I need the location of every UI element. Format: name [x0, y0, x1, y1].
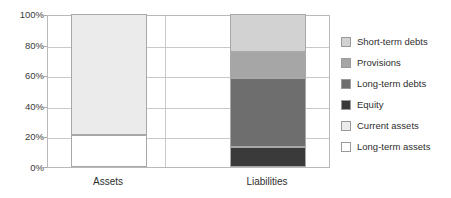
- y-tick-label-80: 80%: [4, 41, 44, 51]
- bar-segment-long-term-assets: [71, 135, 147, 167]
- legend-item-long-term-assets: Long-term assets: [341, 136, 451, 157]
- plot-area: [47, 15, 330, 168]
- legend-item-short-term-debts: Short-term debts: [341, 31, 451, 52]
- y-tick-label-40: 40%: [4, 102, 44, 112]
- stacked-bar-chart: 100% 80% 60% 40% 20% 0%: [0, 0, 451, 198]
- bar-segment-long-term-debts: [230, 78, 306, 147]
- legend-label-provisions: Provisions: [357, 57, 401, 68]
- bar-segment-current-assets: [71, 14, 147, 135]
- y-tick-label-0: 0%: [4, 163, 44, 173]
- legend-label-long-term-debts: Long-term debts: [357, 78, 426, 89]
- x-label-liabilities: Liabilities: [207, 176, 327, 187]
- y-tick-label-20: 20%: [4, 132, 44, 142]
- legend-label-short-term-debts: Short-term debts: [357, 36, 428, 47]
- legend-label-current-assets: Current assets: [357, 120, 419, 131]
- bar-liabilities: [230, 14, 306, 167]
- legend-swatch-icon-equity: [341, 100, 351, 110]
- legend-swatch-icon-long-term-debts: [341, 79, 351, 89]
- legend-swatch-icon-provisions: [341, 58, 351, 68]
- legend-item-provisions: Provisions: [341, 52, 451, 73]
- y-tick-label-60: 60%: [4, 71, 44, 81]
- legend-label-equity: Equity: [357, 99, 383, 110]
- y-axis: 100% 80% 60% 40% 20% 0%: [0, 15, 44, 168]
- legend-swatch-icon-long-term-assets: [341, 142, 351, 152]
- legend-swatch-icon-short-term-debts: [341, 37, 351, 47]
- bar-assets: [71, 14, 147, 167]
- bar-segment-provisions: [230, 52, 306, 78]
- legend-swatch-icon-current-assets: [341, 121, 351, 131]
- bar-segment-short-term-debts: [230, 14, 306, 52]
- legend-item-long-term-debts: Long-term debts: [341, 73, 451, 94]
- x-label-assets: Assets: [48, 176, 168, 187]
- legend-label-long-term-assets: Long-term assets: [357, 141, 430, 152]
- y-tick-label-100: 100%: [4, 10, 44, 20]
- gridline-vertical-2: [165, 16, 166, 167]
- legend-item-equity: Equity: [341, 94, 451, 115]
- bar-segment-equity: [230, 147, 306, 167]
- legend: Short-term debts Provisions Long-term de…: [341, 31, 451, 157]
- legend-item-current-assets: Current assets: [341, 115, 451, 136]
